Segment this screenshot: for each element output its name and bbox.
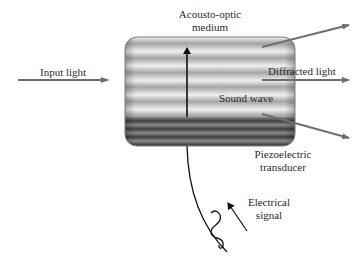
sound-wave-label: Sound wave xyxy=(219,92,273,105)
electrical-signal-wave-icon xyxy=(211,211,223,248)
electrical-signal-label-line2: signal xyxy=(237,209,301,222)
transducer-label: Piezoelectric transducer xyxy=(243,148,323,174)
diffracted-arrow-top xyxy=(262,25,349,47)
medium-label: Acousto-optic medium xyxy=(160,8,260,34)
medium-label-line1: Acousto-optic xyxy=(160,8,260,21)
transducer-wire xyxy=(187,146,227,252)
medium-label-line2: medium xyxy=(160,21,260,34)
diffracted-light-label: Diffracted light xyxy=(268,65,336,78)
input-light-label: Input light xyxy=(40,66,86,79)
transducer-label-line2: transducer xyxy=(243,161,323,174)
electrical-signal-label-line1: Electrical xyxy=(237,196,301,209)
electrical-signal-label: Electrical signal xyxy=(237,196,301,222)
transducer-label-line1: Piezoelectric xyxy=(243,148,323,161)
acousto-optic-diagram xyxy=(0,0,364,266)
